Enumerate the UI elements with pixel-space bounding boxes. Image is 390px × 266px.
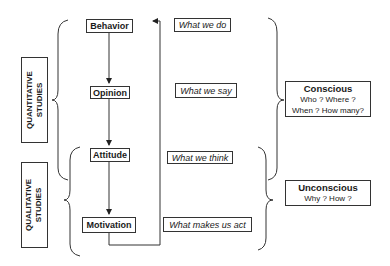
conscious-questions-2: When ? How many? — [292, 105, 364, 116]
unconscious-box: Unconscious Why ? How ? — [285, 180, 371, 206]
unconscious-title: Unconscious — [298, 182, 358, 193]
level-opinion: Opinion — [90, 86, 130, 99]
level-motivation: Motivation — [82, 217, 136, 233]
conscious-questions-1: Who ? Where ? — [300, 94, 356, 105]
level-behavior: Behavior — [86, 19, 133, 33]
level-attitude: Attitude — [90, 148, 130, 162]
description-motivation: What makes us act — [163, 217, 252, 232]
quantitative-line1: QUANTITATIVE — [25, 71, 34, 129]
qualitative-line2: STUDIES — [35, 188, 44, 223]
qualitative-studies-label: QUALITATIVESTUDIES — [21, 162, 48, 248]
description-behavior: What we do — [174, 18, 231, 32]
conscious-title: Conscious — [304, 83, 353, 94]
quantitative-studies-label: QUANTITATIVESTUDIES — [21, 57, 48, 143]
description-attitude: What we think — [167, 151, 233, 164]
quantitative-line2: STUDIES — [35, 83, 44, 118]
unconscious-questions: Why ? How ? — [304, 193, 352, 204]
qualitative-line1: QUALITATIVE — [25, 179, 34, 231]
conscious-box: Conscious Who ? Where ? When ? How many? — [285, 81, 371, 117]
description-opinion: What we say — [175, 83, 237, 98]
